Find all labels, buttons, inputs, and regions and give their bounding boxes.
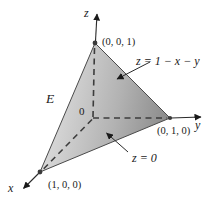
z-axis-line	[96, 14, 98, 41]
x-axis-line	[24, 172, 41, 189]
top-plane-equation-label: z = 1 − x − y	[135, 54, 200, 68]
solid-E-label: E	[45, 91, 55, 106]
right-vertex-dot	[168, 116, 172, 120]
bottom-plane-equation-label: z = 0	[131, 151, 157, 165]
apex-vertex-dot	[93, 41, 98, 46]
origin-label: 0	[79, 105, 85, 117]
y-axis-label: y	[194, 118, 201, 132]
front-vertex-label: (1, 0, 0)	[48, 179, 82, 191]
front-vertex-dot	[38, 170, 43, 175]
tetrahedron-diagram: z (0, 0, 1) z = 1 − x − y E 0 (0, 1, 0) …	[0, 0, 218, 206]
right-vertex-label: (0, 1, 0)	[157, 125, 191, 137]
z-axis-label: z	[83, 6, 89, 20]
tetrahedron-figure: z (0, 0, 1) z = 1 − x − y E 0 (0, 1, 0) …	[0, 0, 218, 206]
x-axis-label: x	[7, 181, 14, 195]
apex-vertex-label: (0, 0, 1)	[102, 36, 136, 48]
